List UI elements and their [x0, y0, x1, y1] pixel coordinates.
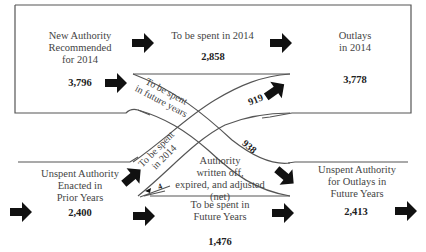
arrow-unspent-output-icon — [395, 201, 417, 221]
future-years-value: 1,476 — [190, 236, 250, 247]
label-line: New Authority — [40, 30, 120, 42]
label-line: Enacted in — [30, 180, 130, 192]
label-line: Recommended — [40, 42, 120, 54]
label-line: Future Years — [307, 188, 407, 200]
arrow-919-to-outlays-icon — [260, 76, 289, 105]
new-authority-label: New Authority Recommended for 2014 — [40, 30, 120, 66]
label-line: Unspent Authority — [307, 164, 407, 176]
label-line: Authority — [170, 155, 270, 167]
unspent-future-value: 2,413 — [326, 206, 386, 217]
arrow-938-to-unspent-icon — [270, 162, 300, 191]
arrow-new-to-spent-icon — [132, 33, 154, 53]
arrow-spent-to-outlays-icon — [270, 33, 292, 53]
spent-2014-value: 2,858 — [183, 51, 243, 62]
new-authority-value: 3,796 — [50, 77, 110, 88]
arrow-prior-to-future-icon — [133, 206, 155, 226]
spent-2014-label: To be spent in 2014 — [160, 30, 265, 42]
arrow-future-to-unspent-icon — [272, 203, 294, 223]
label-line: for Outlays in — [307, 176, 407, 188]
label-line: To be spent in — [180, 199, 260, 211]
unspent-prior-value: 2,400 — [50, 207, 110, 218]
label-line: Unspent Authority — [30, 168, 130, 180]
arrow-prior-input-icon — [10, 202, 32, 222]
label-line: in 2014 — [320, 42, 390, 54]
unspent-future-label: Unspent Authority for Outlays in Future … — [307, 164, 407, 200]
label-line: Outlays — [320, 30, 390, 42]
label-line: Future Years — [180, 211, 260, 223]
written-off-label: Authority written off, expired, and adju… — [170, 155, 270, 203]
label-line: Prior Years — [30, 192, 130, 204]
label-line: written off, — [170, 167, 270, 179]
label-line: for 2014 — [40, 54, 120, 66]
label-line: expired, and adjusted — [170, 179, 270, 191]
unspent-prior-label: Unspent Authority Enacted in Prior Years — [30, 168, 130, 204]
future-years-label: To be spent in Future Years — [180, 199, 260, 223]
bottom-right-divider — [288, 162, 408, 163]
written-off-wedge — [140, 186, 170, 197]
bottom-left-divider — [18, 157, 138, 162]
outlays-2014-value: 3,778 — [325, 74, 385, 85]
outlays-2014-label: Outlays in 2014 — [320, 30, 390, 54]
